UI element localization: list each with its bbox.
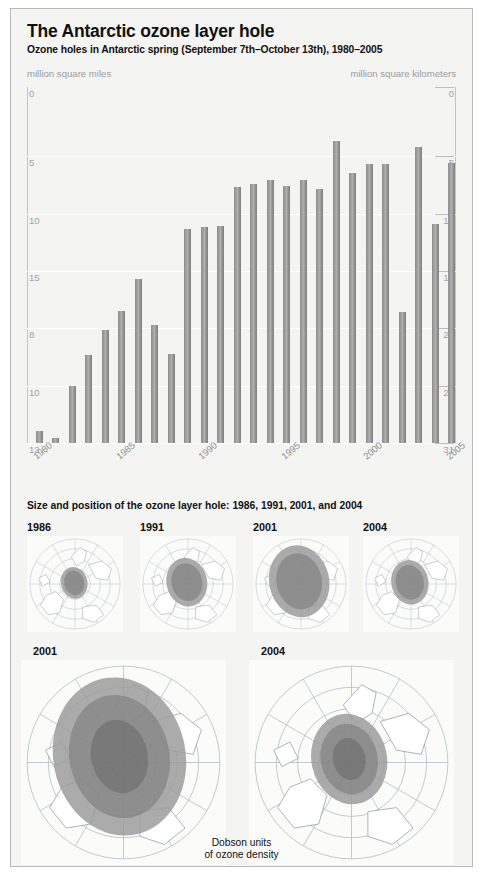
page-title: The Antarctic ozone layer hole	[27, 22, 472, 41]
polar-projection-globe	[363, 536, 459, 636]
small-map-2001: 2001	[253, 521, 349, 636]
bar	[267, 180, 274, 443]
bar	[234, 187, 241, 443]
large-maps-row: 20012004	[11, 645, 472, 835]
map-legend: Dobson units of ozone density	[11, 837, 472, 863]
legend-line-2: of ozone density	[11, 849, 472, 862]
bar	[85, 355, 92, 443]
small-map-1991: 1991	[140, 521, 236, 636]
polar-projection-globe	[140, 536, 236, 636]
bar	[399, 312, 406, 443]
bar	[316, 189, 323, 443]
bar	[283, 186, 290, 443]
bar-series	[28, 87, 455, 443]
small-map-year-label: 1991	[140, 521, 236, 533]
bar	[52, 438, 59, 444]
bar	[349, 173, 356, 443]
gridline	[27, 443, 456, 444]
right-axis-unit-label: million square kilometers	[350, 68, 456, 79]
bar	[36, 431, 43, 444]
bar	[118, 311, 125, 443]
infographic-panel: The Antarctic ozone layer hole Ozone hol…	[10, 8, 473, 867]
bar	[201, 227, 208, 443]
polar-projection-globe	[253, 536, 349, 636]
bar	[300, 180, 307, 443]
large-map-year-label: 2001	[33, 645, 226, 657]
legend-line-1: Dobson units	[11, 837, 472, 850]
bar	[102, 330, 109, 444]
ozone-area-bar-chart: million square miles million square kilo…	[11, 68, 472, 498]
small-map-year-label: 1986	[27, 521, 123, 533]
bar	[217, 226, 224, 443]
left-axis-unit-label: million square miles	[27, 68, 111, 79]
bar	[448, 163, 455, 443]
polar-projection-globe	[27, 536, 123, 636]
bar	[382, 164, 389, 443]
bar	[250, 184, 257, 444]
maps-section-heading: Size and position of the ozone layer hol…	[27, 500, 472, 511]
header: The Antarctic ozone layer hole Ozone hol…	[11, 9, 472, 55]
page-subtitle: Ozone holes in Antarctic spring (Septemb…	[27, 44, 472, 55]
small-map-1986: 1986	[27, 521, 123, 636]
bar	[151, 325, 158, 443]
small-maps-row: 1986199120012004	[11, 521, 472, 641]
small-map-2004: 2004	[363, 521, 459, 636]
small-map-year-label: 2004	[363, 521, 459, 533]
x-axis-labels: 198019851990199520002005	[27, 449, 456, 495]
bar	[168, 354, 175, 444]
large-map-2004: 2004	[249, 645, 454, 867]
large-map-year-label: 2004	[261, 645, 454, 657]
bar	[135, 279, 142, 443]
bar	[432, 224, 439, 443]
small-map-year-label: 2001	[253, 521, 349, 533]
bar	[415, 147, 422, 443]
bar	[184, 229, 191, 444]
bar	[333, 141, 340, 443]
large-map-2001: 2001	[21, 645, 226, 867]
plot-area: 12108151050 312520151050	[27, 87, 456, 443]
bar	[366, 164, 373, 443]
bar	[69, 386, 76, 443]
